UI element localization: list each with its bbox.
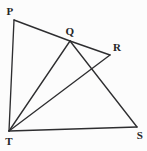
vertex-label-p: P [7,6,14,17]
segment-P-Q [14,20,70,41]
vertex-label-q: Q [66,26,75,37]
segment-T-Q [9,41,70,131]
geometry-figure: PQRST [0,0,147,151]
edges-group [9,20,137,131]
vertex-label-s: S [137,130,143,141]
geometry-canvas [0,0,147,151]
segment-P-T [9,20,14,131]
vertex-label-t: T [5,136,13,147]
segment-Q-S [70,41,137,127]
segment-T-S [9,127,137,131]
vertex-label-r: R [113,42,121,53]
segment-T-R [9,55,110,131]
